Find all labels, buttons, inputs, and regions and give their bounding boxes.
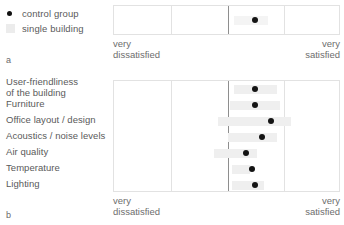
data-point	[252, 182, 258, 188]
legend-item-single-building: single building	[6, 21, 110, 36]
range-band	[214, 149, 257, 158]
chart-legend: control group single building	[6, 6, 110, 36]
band-marker-icon	[6, 24, 22, 33]
figure-tag-b: b	[6, 210, 11, 220]
gridline	[171, 6, 172, 34]
category-label: Acoustics / noise levels	[6, 130, 105, 141]
gridline	[284, 81, 285, 191]
axis-label-very-dissatisfied-bottom: very dissatisfied	[113, 195, 160, 217]
data-point	[243, 150, 249, 156]
plot-panel-b	[113, 80, 340, 192]
axis-label-very-satisfied-bottom: very satisfied	[243, 195, 340, 217]
range-band	[232, 181, 264, 190]
category-label: Furniture	[6, 98, 44, 109]
range-band	[218, 117, 291, 126]
category-label: User-friendliness of the building	[6, 76, 78, 98]
data-point	[268, 118, 274, 124]
data-point	[252, 86, 258, 92]
gridline	[284, 6, 285, 34]
data-point	[249, 166, 255, 172]
data-point	[252, 102, 258, 108]
range-band	[228, 133, 278, 142]
category-label: Temperature	[6, 162, 60, 173]
axis-label-very-dissatisfied-top: very dissatisfied	[113, 38, 160, 60]
data-point	[259, 134, 265, 140]
data-point	[252, 17, 258, 23]
figure-tag-a: a	[6, 55, 11, 65]
dot-marker-icon	[6, 11, 22, 16]
legend-item-control-group: control group	[6, 6, 110, 21]
gridline	[171, 81, 172, 191]
legend-label-control-group: control group	[22, 8, 79, 20]
range-band	[232, 165, 250, 174]
category-label: Office layout / design	[6, 114, 96, 125]
plot-panel-a	[113, 5, 340, 35]
gridline-center	[228, 6, 229, 34]
axis-label-very-satisfied-top: very satisfied	[243, 38, 340, 60]
category-label: Air quality	[6, 146, 48, 157]
category-label: Lighting	[6, 178, 40, 189]
legend-label-single-building: single building	[22, 23, 84, 35]
